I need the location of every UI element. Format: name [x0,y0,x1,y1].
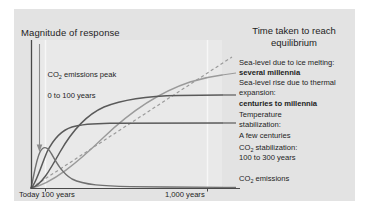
co2-subscript: 2 [250,147,253,153]
annotation-temperature-stabilization: Temperature stabilization: A few centuri… [239,110,355,141]
annotation-thermal-line-2: expansion: [239,88,276,97]
co2-peak-suffix: emissions peak [62,70,116,79]
co2-subscript: 2 [250,178,253,184]
annotation-sea-level-ice-melting: Sea-level due to ice melting: several mi… [239,58,355,79]
curve-co2-stabilization [31,123,222,188]
annotation-co2emis-suffix: emissions [253,174,289,183]
annotation-temp-line-1: Temperature [239,110,282,119]
right-title: Time taken to reach equilibrium [238,25,350,49]
annotation-temp-line-3: A few centuries [239,131,291,140]
co2-subscript: 2 [59,74,62,80]
annotation-co2-emissions: CO2 emissions [239,174,355,184]
co2-text: CO [47,70,58,79]
annotation-co2emis-line-1: CO2 emissions [239,174,289,183]
climate-commitment-figure: Magnitude of response Time taken to reac… [0,0,369,220]
left-title: Magnitude of response [21,27,120,38]
annotation-co2stab-line-1: CO2 stabilization: [239,143,297,152]
x-axis-label-1000-years: 1,000 years [165,191,205,200]
annotation-ice-line-1: Sea-level due to ice melting: [239,58,334,67]
annotation-temp-line-2: stabilization: [239,120,281,129]
co2-peak-line-1: CO2 emissions peak [47,70,116,79]
x-axis-label-today: Today 100 years [19,191,75,200]
co2-text: CO [239,174,250,183]
annotation-sea-level-thermal-expansion: Sea-level rise due to thermal expansion:… [239,78,355,109]
co2-emissions-peak-note: CO2 emissions peak 0 to 100 years [39,60,116,111]
annotation-thermal-line-3: centuries to millennia [239,99,317,108]
co2-text: CO [239,143,250,152]
annotation-co2stab-line-2: 100 to 300 years [239,153,296,162]
annotation-thermal-line-1: Sea-level rise due to thermal [239,78,336,87]
leader-line-thermal-expansion [222,73,236,75]
co2-peak-line-2: 0 to 100 years [47,91,95,100]
annotation-ice-line-2: several millennia [239,68,300,77]
annotation-co2stab-suffix: stabilization: [253,143,297,152]
annotation-co2-stabilization: CO2 stabilization: 100 to 300 years [239,143,355,164]
